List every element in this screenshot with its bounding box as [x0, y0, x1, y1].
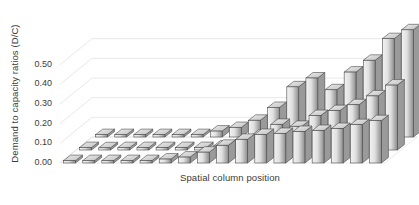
bar-side-face: [362, 119, 369, 163]
bar-side-face: [397, 80, 404, 150]
bar-front-face: [83, 161, 95, 163]
bar: [350, 119, 369, 163]
bar-front-face: [274, 134, 286, 164]
bar: [96, 129, 115, 137]
chart-container: Demand to capacity ratios (D/C) Spatial …: [0, 0, 419, 205]
y-tick-label: 0.00: [22, 157, 52, 167]
bar-front-face: [217, 145, 229, 163]
bar-front-face: [80, 148, 92, 150]
bar-front-face: [350, 125, 362, 163]
bar-front-face: [64, 161, 76, 163]
bar-side-face: [413, 24, 419, 137]
bar-front-face: [121, 161, 133, 163]
y-tick-label: 0.20: [22, 118, 52, 128]
bar-front-face: [191, 135, 203, 137]
bar-front-face: [137, 148, 149, 150]
y-tick-label: 0.30: [22, 98, 52, 108]
bar: [217, 140, 236, 163]
bar-front-face: [96, 135, 108, 137]
bar-front-face: [134, 135, 146, 137]
bar: [153, 129, 172, 137]
bar-front-face: [178, 157, 190, 163]
bar: [134, 129, 153, 137]
bar-front-face: [210, 131, 222, 137]
bar-front-face: [255, 134, 267, 163]
bar-front-face: [312, 131, 324, 163]
bar-front-face: [156, 148, 168, 150]
bar-front-face: [172, 135, 184, 137]
bar: [274, 128, 293, 163]
y-tick-label: 0.10: [22, 137, 52, 147]
bar-front-face: [331, 129, 343, 163]
bar-front-face: [115, 135, 127, 137]
bar-front-face: [175, 148, 187, 150]
bar: [172, 129, 191, 137]
bar-side-face: [381, 115, 388, 163]
bar-side-face: [286, 128, 293, 163]
bar-front-face: [102, 161, 114, 163]
bar-front-face: [159, 159, 171, 163]
bar-side-face: [343, 123, 350, 163]
bar-side-face: [324, 125, 331, 163]
bar-front-face: [229, 128, 241, 137]
bar: [115, 129, 134, 137]
bar: [255, 129, 274, 163]
bar-side-face: [267, 129, 274, 163]
y-tick-label: 0.50: [22, 59, 52, 69]
bar: [210, 126, 229, 137]
bar: [331, 123, 350, 163]
bar: [370, 115, 389, 163]
bar: [236, 134, 255, 163]
bar-front-face: [153, 135, 165, 137]
bar-front-face: [236, 139, 248, 163]
bar: [293, 126, 312, 163]
bar: [191, 129, 210, 137]
bar-front-face: [293, 132, 305, 163]
bar-front-face: [197, 152, 209, 163]
bar-side-face: [305, 126, 312, 163]
y-tick-label: 0.40: [22, 78, 52, 88]
bar-front-face: [370, 121, 382, 163]
bar-front-face: [99, 148, 111, 150]
bar: [312, 125, 331, 163]
bar-front-face: [118, 148, 130, 150]
bar-front-face: [140, 161, 152, 163]
plot-area: [0, 0, 419, 205]
